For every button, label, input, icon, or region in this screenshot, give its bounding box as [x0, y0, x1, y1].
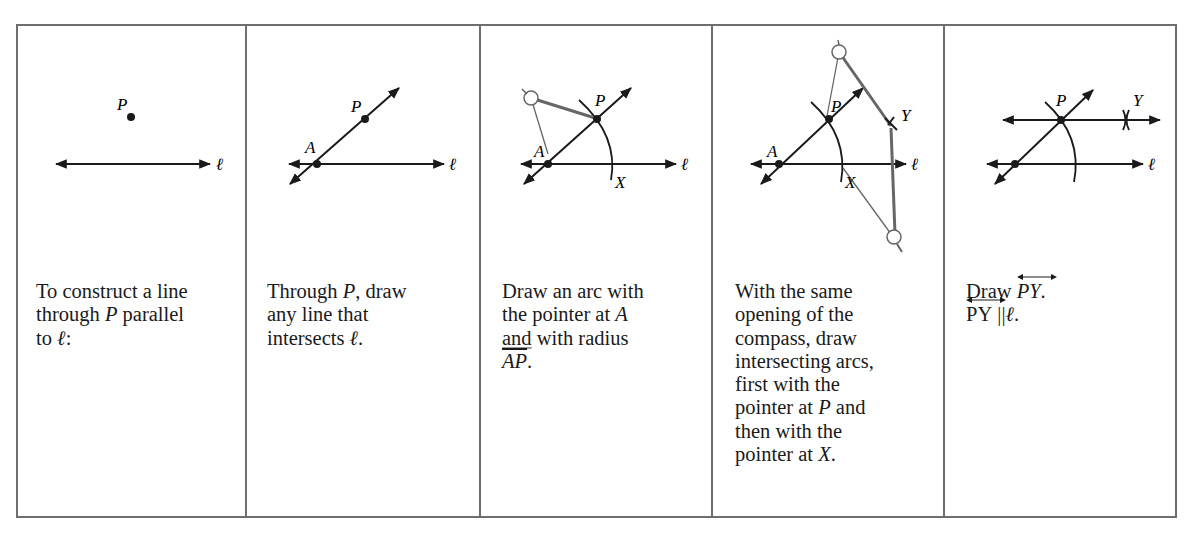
label-l: ℓ: [1148, 155, 1155, 174]
label-x: X: [614, 173, 626, 192]
compass-icon: [827, 40, 902, 252]
label-a: A: [533, 142, 545, 161]
point-p: [361, 115, 369, 123]
point-a: [544, 160, 552, 168]
diagram-step-3: P A X ℓ: [481, 26, 711, 276]
label-p: P: [350, 97, 361, 116]
label-p: P: [1055, 91, 1066, 110]
panel-step-3: P A X ℓ Draw an arc with the pointer at …: [481, 26, 711, 516]
ray-py-notation: PY: [1017, 280, 1041, 303]
diagram-step-4: P A X Y ℓ: [713, 26, 943, 276]
panel-step-5: P Y ℓ Draw PY. PY ||ℓ.: [945, 26, 1173, 516]
caption-step-3: Draw an arc with the pointer at A and wi…: [502, 280, 644, 373]
label-a: A: [304, 138, 316, 157]
compass-icon: [522, 89, 595, 154]
transversal-line: [995, 90, 1093, 184]
point-a: [313, 160, 321, 168]
label-x: X: [844, 173, 856, 192]
point-p: [593, 115, 601, 123]
label-l: ℓ: [449, 155, 456, 174]
transversal-line: [290, 88, 399, 184]
point-a: [775, 160, 783, 168]
point-p: [127, 113, 135, 121]
ray-py-notation: PY: [966, 303, 992, 326]
label-y: Y: [1133, 91, 1144, 110]
label-l: ℓ: [911, 155, 918, 174]
label-y: Y: [901, 106, 912, 125]
label-p: P: [594, 91, 605, 110]
arc-from-a: [579, 100, 612, 180]
label-a: A: [766, 142, 778, 161]
point-p: [825, 115, 833, 123]
panel-step-2: P A ℓ Through P, draw any line that inte…: [247, 26, 479, 516]
double-arrow-icon: [966, 296, 1006, 304]
caption-step-4: With the same opening of the compass, dr…: [735, 280, 874, 466]
parallel-symbol: ||: [997, 303, 1005, 325]
diagram-step-1: P ℓ: [18, 26, 245, 276]
diagram-step-5: P Y ℓ: [945, 26, 1173, 276]
transversal-line: [524, 88, 631, 184]
caption-step-2: Through P, draw any line that intersects…: [267, 280, 407, 350]
point-p: [1057, 116, 1065, 124]
caption-step-1: To construct a line through P parallel t…: [36, 280, 188, 350]
diagram-step-2: P A ℓ: [247, 26, 479, 276]
label-p: P: [830, 97, 841, 116]
label-p: P: [116, 95, 127, 114]
label-l: ℓ: [681, 155, 688, 174]
panel-step-4: P A X Y ℓ With the same opening of the c…: [713, 26, 943, 516]
arc-from-a: [1045, 102, 1076, 182]
caption-step-5: Draw PY. PY ||ℓ.: [966, 280, 1046, 327]
panel-step-1: P ℓ To construct a line through P parall…: [18, 26, 245, 516]
point-a: [1011, 160, 1019, 168]
label-l: ℓ: [216, 155, 223, 174]
double-arrow-icon: [1017, 273, 1057, 281]
